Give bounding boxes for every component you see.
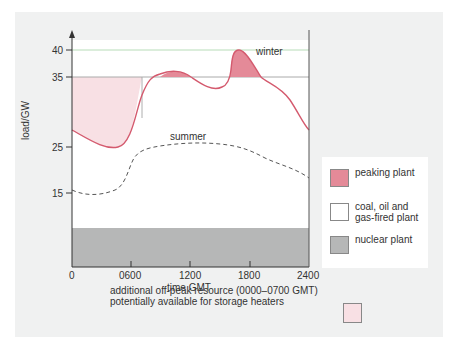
- legend-label-nuclear: nuclear plant: [355, 234, 427, 245]
- nuclear-swatch: [330, 236, 349, 254]
- footnote-line1: additional off-peak resource (0000–0700 …: [110, 285, 318, 296]
- xtick-0600: 0600: [119, 270, 142, 281]
- legend-item-peaking: peaking plant: [330, 167, 427, 187]
- xtick-0: 0: [69, 270, 75, 281]
- legend-item-nuclear: nuclear plant: [330, 234, 427, 254]
- ytick-35: 35: [52, 72, 64, 83]
- legend-item-coal: coal, oil and gas-fired plant: [330, 201, 427, 223]
- y-axis-arrow: [69, 30, 75, 38]
- ytick-15: 15: [52, 188, 64, 199]
- legend-label-peaking: peaking plant: [355, 167, 427, 178]
- peaking-swatch: [330, 169, 349, 187]
- ytick-40: 40: [52, 45, 64, 56]
- legend: peaking plant coal, oil and gas-fired pl…: [322, 157, 428, 268]
- coal-swatch: [330, 203, 349, 221]
- xtick-1200: 1200: [179, 270, 202, 281]
- ytick-25: 25: [52, 142, 64, 153]
- footnote: additional off-peak resource (0000–0700 …: [110, 285, 318, 307]
- winter-label: winter: [255, 46, 283, 57]
- y-axis-label: load/GW: [20, 101, 31, 140]
- legend-label-coal: coal, oil and gas-fired plant: [355, 201, 427, 223]
- xtick-1800: 1800: [238, 270, 261, 281]
- xtick-2400: 2400: [297, 270, 320, 281]
- offpeak-swatch: [343, 303, 362, 323]
- footnote-line2: potentially available for storage heater…: [110, 296, 318, 307]
- summer-label: summer: [170, 131, 207, 142]
